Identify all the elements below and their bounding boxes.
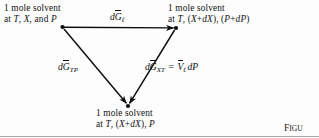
arrow-label-top: dGℓ: [110, 11, 125, 23]
arrow-label-right-rhs-tail: dP: [186, 61, 198, 72]
vertex-dot-top-right: [174, 26, 178, 30]
arrow-label-right-equals: =: [165, 61, 177, 72]
arrow-label-left-G: G: [63, 61, 70, 72]
arrow-label-left: dGTP: [58, 61, 78, 73]
figure-caption: FIGU: [284, 122, 303, 133]
arrow-label-right-V: V: [177, 61, 183, 72]
arrow-label-left-sub: TP: [70, 66, 78, 73]
vertex-dot-top-left: [60, 25, 64, 29]
vertex-dot-bottom: [126, 104, 130, 108]
arrow-label-top-sub: ℓ: [122, 16, 125, 23]
arrow-top-horizontal: [64, 27, 174, 28]
arrow-label-right-G: G: [150, 61, 157, 72]
figure-caption-smallcaps: IGU: [289, 124, 303, 133]
arrow-label-right-sub: XT: [157, 66, 165, 73]
arrow-label-top-G: G: [115, 11, 122, 22]
arrow-label-right: dGXT=VℓdP: [145, 61, 198, 73]
figure-canvas: 1 mole solvent at T, X, and P 1 mole sol…: [0, 0, 319, 138]
bottom-divider: [0, 136, 319, 137]
